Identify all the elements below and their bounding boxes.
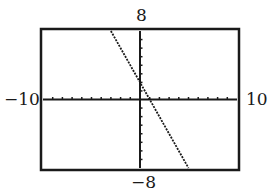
ymax-label: 8: [136, 7, 147, 24]
ymin-label: −8: [131, 174, 156, 190]
xmin-label: −10: [4, 91, 40, 108]
graph-window: [0, 0, 271, 190]
axes: [43, 31, 237, 168]
xmax-label: 10: [246, 91, 268, 108]
